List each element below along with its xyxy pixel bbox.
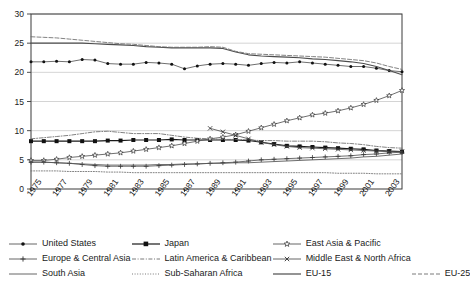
marker-dot (106, 62, 109, 65)
legend-entry: Middle East & North Africa (272, 253, 411, 264)
legend-item-sa[interactable]: South Asia (8, 266, 131, 281)
marker-star (335, 108, 340, 113)
marker-plus (323, 155, 328, 160)
marker-star (67, 155, 72, 160)
marker-star (387, 93, 392, 98)
marker-dot (247, 64, 250, 67)
legend-item-eu15[interactable]: EU-15 (272, 266, 411, 281)
xtick-label: 2001 (357, 177, 376, 198)
legend-item-mena[interactable]: Middle East & North Africa (272, 251, 411, 266)
marker-dot (285, 62, 288, 65)
xtick-label: 1977 (50, 177, 69, 198)
marker-star (169, 143, 174, 148)
legend-item-eu25[interactable]: EU-25 (411, 266, 470, 281)
marker-plus (272, 157, 277, 162)
marker-dot (81, 58, 84, 61)
xtick-label: 1983 (127, 177, 146, 198)
series-line (31, 43, 402, 75)
series-3 (29, 150, 405, 169)
marker-dot (145, 61, 148, 64)
marker-dot (42, 60, 45, 63)
series-9 (31, 37, 402, 70)
line-chart-svg: 0510152025301975197719791981198319851987… (0, 0, 408, 232)
legend-label: EU-15 (306, 268, 332, 279)
marker-dot (30, 60, 33, 63)
legend-table: United StatesJapanEast Asia & PacificEur… (8, 236, 470, 281)
marker-dot (298, 60, 301, 63)
marker-star (118, 150, 123, 155)
marker-square (93, 139, 97, 143)
marker-star (272, 122, 277, 127)
marker-dot (132, 63, 135, 66)
marker-plus (118, 164, 123, 169)
legend-entry: Japan (131, 238, 272, 249)
marker-square (234, 138, 238, 142)
series-1 (29, 137, 404, 153)
legend-item-eca[interactable]: Europe & Central Asia (8, 251, 131, 266)
chart-plot-area: 0510152025301975197719791981198319851987… (0, 0, 408, 232)
legend-swatch (131, 254, 161, 264)
marker-plus (348, 153, 353, 158)
xtick-label: 1991 (229, 177, 248, 198)
marker-star (284, 118, 289, 123)
legend-entry: Europe & Central Asia (8, 253, 131, 264)
xtick-label: 1981 (101, 177, 120, 198)
marker-star (92, 152, 97, 157)
marker-plus (182, 162, 187, 167)
marker-plus (157, 163, 162, 168)
marker-square (80, 139, 84, 143)
legend-item-eap[interactable]: East Asia & Pacific (272, 236, 411, 251)
marker-dot (311, 62, 314, 65)
legend-swatch (131, 269, 161, 279)
series-0 (30, 58, 404, 73)
ytick-label: 25 (15, 38, 25, 48)
marker-plus (233, 160, 238, 165)
legend-item-lac[interactable]: Latin America & Caribbean (131, 251, 272, 266)
marker-dot (93, 59, 96, 62)
marker-square (29, 139, 33, 143)
marker-dot (260, 62, 263, 65)
ytick-label: 30 (15, 9, 25, 19)
legend-row: Europe & Central AsiaLatin America & Car… (8, 251, 470, 266)
legend-swatch (272, 254, 302, 264)
marker-dot (183, 67, 186, 70)
marker-star (144, 147, 149, 152)
legend-swatch (272, 269, 302, 279)
legend-entry: EU-25 (411, 268, 470, 279)
marker-star (310, 112, 315, 117)
marker-square (170, 137, 174, 141)
legend-label: United States (42, 238, 96, 249)
marker-square (67, 139, 71, 143)
marker-star (323, 110, 328, 115)
ytick-label: 10 (15, 126, 25, 136)
legend-entry: United States (8, 238, 131, 249)
series-7 (31, 171, 402, 174)
ytick-label: 5 (19, 155, 24, 165)
legend-item-ssa[interactable]: Sub-Saharan Africa (131, 266, 272, 281)
marker-dot (55, 60, 58, 63)
marker-dot (68, 60, 71, 63)
marker-star (297, 115, 302, 120)
marker-dot (234, 63, 237, 66)
legend-entry: Latin America & Caribbean (131, 253, 272, 264)
legend-item-japan[interactable]: Japan (131, 236, 272, 251)
xtick-label: 1985 (152, 177, 171, 198)
marker-dot (170, 63, 173, 66)
marker-star (80, 154, 85, 159)
legend-entry: EU-15 (272, 268, 411, 279)
marker-dot (157, 62, 160, 65)
legend-label: Sub-Saharan Africa (165, 268, 243, 279)
legend-swatch (272, 239, 302, 249)
marker-star (259, 125, 264, 130)
marker-plus (93, 163, 98, 168)
legend-label: Japan (165, 238, 190, 249)
legend-label: Middle East & North Africa (306, 253, 411, 264)
legend-label: East Asia & Pacific (306, 238, 381, 249)
ytick-label: 20 (15, 67, 25, 77)
xtick-label: 1993 (255, 177, 274, 198)
marker-plus (144, 164, 149, 169)
legend-item-us[interactable]: United States (8, 236, 131, 251)
marker-star (156, 145, 161, 150)
xtick-label: 1997 (306, 177, 325, 198)
ytick-label: 15 (15, 97, 25, 107)
